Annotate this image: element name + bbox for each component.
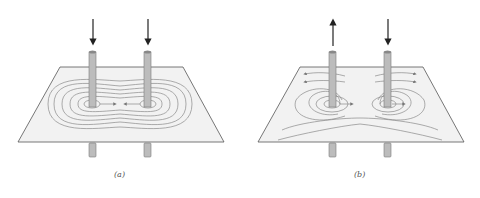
panel-b-label: (b) (354, 170, 365, 179)
wire-a-right (144, 52, 151, 107)
wire-b-right (384, 52, 391, 107)
panel-a-label: (a) (114, 170, 125, 179)
wire-a-left (89, 52, 96, 107)
magnetic-field-diagram (0, 0, 480, 198)
panel-b (258, 19, 464, 157)
plane-a (18, 67, 224, 142)
panel-a (18, 19, 224, 157)
wire-b-left (329, 52, 336, 107)
plane-b (258, 67, 464, 142)
